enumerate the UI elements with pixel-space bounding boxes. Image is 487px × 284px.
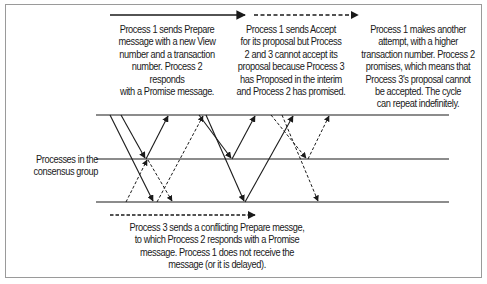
caption-line: Process 1 sends Prepare <box>114 23 220 35</box>
caption-line: number. Process 2 responds <box>114 60 220 85</box>
caption-line: has Proposed in the interim <box>233 73 349 85</box>
caption-line: proposal because Process 3 <box>233 60 349 72</box>
p2-reply-to-p1 <box>232 116 255 159</box>
caption-line: be accepted. The cycle <box>360 85 476 97</box>
caption-conflict: Process 3 sends a conflicting Prepare me… <box>129 221 305 271</box>
caption-line: to which Process 2 responds with a Promi… <box>129 233 305 245</box>
retry-prepare-to-p3 <box>282 115 318 201</box>
prepare-to-p2 <box>121 115 145 158</box>
caption-line: 2 and 3 cannot accept its <box>233 48 349 60</box>
promise-to-p1 <box>146 116 168 159</box>
caption-line: with a Promise message. <box>114 85 220 97</box>
caption-line: message (or it is delayed). <box>129 258 305 270</box>
p2-promise-to-p3 <box>148 160 172 201</box>
caption-line: Process 1 sends Accept <box>233 23 349 35</box>
processes-label-line1: Processes in the <box>19 153 98 165</box>
retry-promise-to-p1 <box>308 116 329 159</box>
caption-line: attempt, with a higher <box>360 35 476 47</box>
caption-line: Process 1 makes another <box>360 23 476 35</box>
caption-line: can repeat indefinitely. <box>360 97 476 109</box>
caption-line: transaction number. Process 2 <box>360 48 476 60</box>
caption-phase1: Process 1 sends Prepare message with a n… <box>114 23 220 97</box>
accept-to-p3 <box>206 115 244 201</box>
caption-line: number and a transaction <box>114 48 220 60</box>
caption-line: promises, which means that <box>360 60 476 72</box>
caption-line: message. Process 1 does not receive the <box>129 246 305 258</box>
caption-line: and Process 2 has promised. <box>233 85 349 97</box>
caption-phase3: Process 1 makes another attempt, with a … <box>360 23 476 110</box>
caption-line: Process 3's proposal cannot <box>360 73 476 85</box>
processes-label: Processes in the consensus group <box>19 153 98 178</box>
caption-line: message with a new View <box>114 35 220 47</box>
retry-prepare-to-p2 <box>271 115 306 158</box>
processes-label-line2: consensus group <box>19 165 98 177</box>
caption-line: Process 3 sends a conflicting Prepare me… <box>129 221 305 233</box>
caption-phase2: Process 1 sends Accept for its proposal … <box>233 23 349 97</box>
p3-prepare-to-p2 <box>126 160 147 202</box>
caption-line: for its proposal but Process <box>233 35 349 47</box>
